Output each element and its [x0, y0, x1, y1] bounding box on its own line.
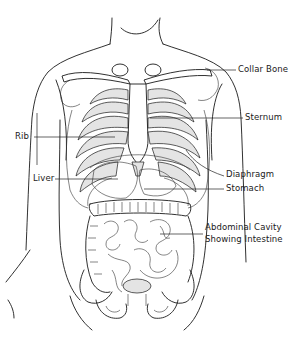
label-rib: Rib: [15, 131, 29, 142]
neck-outline: [110, 18, 163, 44]
label-abdominal-cavity: Abdominal Cavity: [205, 222, 282, 233]
bladder: [123, 279, 151, 293]
label-sternum: Sternum: [245, 112, 282, 123]
label-showing-intestine: Showing Intestine: [205, 234, 283, 245]
large-intestine: [86, 200, 194, 293]
anatomy-diagram: Collar Bone Sternum Rib Liver Diaphragm …: [0, 0, 305, 340]
label-diaphragm: Diaphragm: [226, 169, 274, 180]
ribs-right: [148, 89, 210, 208]
xiphoid: [132, 162, 144, 176]
label-stomach: Stomach: [226, 183, 264, 194]
sternum-bone: [128, 84, 148, 164]
label-collar-bone: Collar Bone: [238, 64, 288, 75]
label-liver: Liver: [33, 173, 54, 184]
pelvis: [8, 270, 204, 330]
